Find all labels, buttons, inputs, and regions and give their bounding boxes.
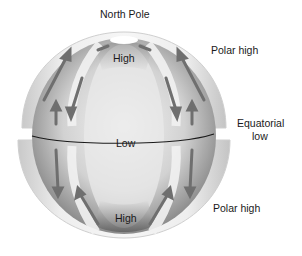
polar-high-top-label: Polar high (211, 44, 258, 56)
high-bottom-label: High (115, 212, 137, 224)
north-pole-label: North Pole (100, 8, 150, 20)
equatorial-low-label-line2: low (252, 130, 268, 142)
polar-high-bottom-label: Polar high (213, 202, 260, 214)
high-top-label: High (113, 52, 135, 64)
low-center-label: Low (116, 137, 135, 149)
equatorial-low-label-line1: Equatorial (237, 117, 284, 129)
